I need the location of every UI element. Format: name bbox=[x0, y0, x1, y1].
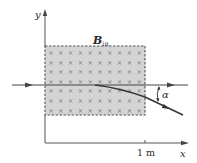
diagram-canvas: ××××××××××××××××××××××××××××××××××××××××… bbox=[0, 0, 197, 163]
field-marker-x-icon: × bbox=[58, 87, 63, 95]
field-marker-x-icon: × bbox=[87, 87, 92, 95]
field-marker-x-icon: × bbox=[87, 49, 92, 57]
field-label: Bin bbox=[92, 34, 109, 48]
field-marker-x-icon: × bbox=[97, 87, 102, 95]
field-marker-x-icon: × bbox=[97, 49, 102, 57]
field-marker-x-icon: × bbox=[127, 97, 132, 105]
angle-arrow-down-icon bbox=[156, 98, 159, 102]
field-marker-x-icon: × bbox=[68, 87, 73, 95]
field-marker-x-icon: × bbox=[48, 68, 53, 76]
field-marker-x-icon: × bbox=[127, 49, 132, 57]
field-marker-x-icon: × bbox=[117, 59, 122, 67]
field-marker-x-icon: × bbox=[48, 59, 53, 67]
field-marker-x-icon: × bbox=[78, 97, 83, 105]
field-marker-x-icon: × bbox=[97, 59, 102, 67]
field-marker-x-icon: × bbox=[127, 68, 132, 76]
angle-label: α bbox=[162, 89, 169, 100]
field-marker-x-icon: × bbox=[107, 87, 112, 95]
angle-arrow-up-icon bbox=[157, 86, 160, 90]
field-marker-x-icon: × bbox=[107, 68, 112, 76]
field-marker-x-icon: × bbox=[107, 97, 112, 105]
field-marker-x-icon: × bbox=[136, 107, 141, 115]
field-marker-x-icon: × bbox=[97, 97, 102, 105]
x-axis-arrow-icon bbox=[181, 141, 189, 145]
field-marker-x-icon: × bbox=[117, 68, 122, 76]
field-label-subscript: in bbox=[102, 40, 108, 48]
field-marker-x-icon: × bbox=[68, 97, 73, 105]
field-marker-x-icon: × bbox=[68, 107, 73, 115]
field-marker-x-icon: × bbox=[58, 107, 63, 115]
y-axis-label: y bbox=[34, 9, 41, 20]
field-marker-x-icon: × bbox=[87, 107, 92, 115]
deflected-arrow-icon bbox=[162, 104, 170, 109]
incoming-arrow-icon bbox=[25, 83, 33, 88]
field-marker-x-icon: × bbox=[48, 107, 53, 115]
field-marker-x-icon: × bbox=[117, 107, 122, 115]
field-marker-x-icon: × bbox=[87, 97, 92, 105]
field-marker-x-icon: × bbox=[68, 49, 73, 57]
field-marker-x-icon: × bbox=[97, 68, 102, 76]
field-marker-x-icon: × bbox=[78, 107, 83, 115]
field-marker-x-icon: × bbox=[58, 59, 63, 67]
x-axis-label: x bbox=[180, 148, 186, 159]
field-marker-x-icon: × bbox=[87, 59, 92, 67]
field-marker-x-icon: × bbox=[87, 68, 92, 76]
field-marker-x-icon: × bbox=[127, 59, 132, 67]
field-marker-x-icon: × bbox=[117, 49, 122, 57]
field-marker-x-icon: × bbox=[136, 49, 141, 57]
field-marker-x-icon: × bbox=[136, 97, 141, 105]
field-marker-x-icon: × bbox=[48, 87, 53, 95]
field-marker-x-icon: × bbox=[58, 97, 63, 105]
field-marker-x-icon: × bbox=[68, 59, 73, 67]
field-marker-x-icon: × bbox=[107, 107, 112, 115]
y-axis-arrow-icon bbox=[43, 9, 47, 16]
outgoing-straight-arrow-icon bbox=[167, 83, 175, 88]
field-marker-x-icon: × bbox=[107, 49, 112, 57]
field-marker-x-icon: × bbox=[107, 59, 112, 67]
field-marker-x-icon: × bbox=[78, 87, 83, 95]
tick-label-1m: 1 m bbox=[137, 147, 155, 158]
field-marker-x-icon: × bbox=[78, 59, 83, 67]
field-marker-x-icon: × bbox=[78, 68, 83, 76]
field-marker-x-icon: × bbox=[48, 97, 53, 105]
field-marker-x-icon: × bbox=[68, 68, 73, 76]
field-marker-x-icon: × bbox=[58, 68, 63, 76]
field-marker-x-icon: × bbox=[58, 49, 63, 57]
field-marker-x-icon: × bbox=[97, 107, 102, 115]
field-marker-x-icon: × bbox=[136, 59, 141, 67]
field-marker-x-icon: × bbox=[48, 49, 53, 57]
field-marker-x-icon: × bbox=[136, 68, 141, 76]
field-marker-x-icon: × bbox=[127, 107, 132, 115]
field-marker-x-icon: × bbox=[78, 49, 83, 57]
field-marker-x-icon: × bbox=[117, 97, 122, 105]
